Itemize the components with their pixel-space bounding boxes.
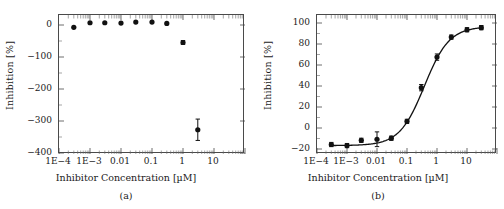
data-point [359,138,364,143]
data-point [164,21,169,26]
panel-b-y-tick-labels: 100 80 60 40 20 0 −20 [276,0,310,152]
x-tick-label: 0.01 [110,156,130,166]
panel-a-x-ticks [59,15,245,154]
panel-b-x-ticks [317,15,497,154]
x-tick-label: 1E−4 [303,156,329,166]
x-tick-label: 1 [179,156,185,166]
panel-b-caption: (b) [252,190,504,201]
data-point [71,25,76,30]
panel-a-data-series [71,20,200,141]
data-point [419,85,424,90]
data-point [449,35,454,40]
y-tick-label: −200 [18,83,52,93]
x-tick-label: 1E−4 [45,156,71,166]
data-point [133,20,138,25]
panel-b-y-axis-label: Inhibition [%] [260,0,276,150]
data-point [102,20,107,25]
figure-container: Inhibition [%] 0 −100 −200 −300 −400 [0,0,504,209]
y-tick-label: 40 [276,80,310,90]
data-point [329,142,334,147]
x-tick-label: 1E−3 [76,156,102,166]
y-tick-label: 60 [276,59,310,69]
panel-a-plot-svg [59,15,245,154]
data-point [404,119,409,124]
x-tick-label: 10 [460,156,471,166]
y-tick-label: 100 [276,17,310,27]
x-tick-label: 0.01 [366,156,386,166]
y-tick-label: 20 [276,101,310,111]
data-point [389,136,394,141]
x-tick-label: 1 [433,156,439,166]
data-point [374,137,379,142]
panel-b-x-axis-label: Inhibitor Concentration [µM] [252,172,504,183]
x-tick-label: 10 [207,156,218,166]
panel-a-caption: (a) [0,190,252,201]
panel-b-plot-svg [317,15,497,154]
data-point [118,20,123,25]
y-tick-label: 80 [276,38,310,48]
panel-a-plot-area [58,14,244,153]
panel-a-y-axis-label: Inhibition [%] [2,0,18,150]
data-point [479,25,484,30]
data-point [195,127,200,132]
panel-a-y-tick-labels: 0 −100 −200 −300 −400 [18,0,52,152]
x-tick-label: 0.1 [399,156,413,166]
x-tick-label: 0.1 [144,156,158,166]
panel-b-fit-curve [331,28,481,146]
panel-b-x-tick-labels: 1E−4 1E−3 0.01 0.1 1 10 [316,156,496,170]
y-tick-label: −100 [18,51,52,61]
panel-b-data-series [329,25,484,148]
data-point [87,20,92,25]
y-tick-label: 0 [276,122,310,132]
data-point [434,55,439,60]
panel-b-plot-area [316,14,496,153]
panel-a-x-axis-label: Inhibitor Concentration [µM] [0,172,252,183]
panel-b-y-ticks [317,23,497,149]
panel-a: Inhibition [%] 0 −100 −200 −300 −400 [0,0,252,209]
y-tick-label: 0 [18,19,52,29]
panel-b: Inhibition [%] 100 80 60 40 20 0 −20 [252,0,504,209]
panel-a-y-ticks [59,25,245,153]
data-point [149,20,154,25]
data-point [180,40,185,45]
x-tick-label: 1E−3 [333,156,359,166]
panel-a-x-tick-labels: 1E−4 1E−3 0.01 0.1 1 10 [58,156,244,170]
y-tick-label: −300 [18,115,52,125]
y-tick-label: −20 [276,143,310,153]
data-point [344,143,349,148]
data-point [464,27,469,32]
